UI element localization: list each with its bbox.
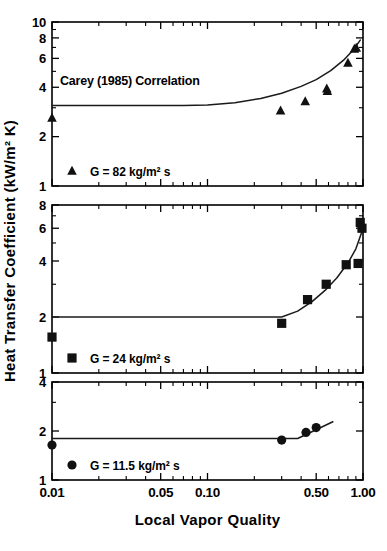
x-tick-label: 0.05	[148, 485, 174, 500]
data-point-triangle	[300, 96, 310, 105]
plot-frame-panel-middle	[52, 205, 363, 373]
y-tick-label: 8	[39, 31, 46, 46]
data-point-triangle	[276, 105, 286, 114]
plot-frame-panel-top	[52, 22, 363, 186]
data-point-circle	[312, 423, 321, 432]
x-tick-label: 0.50	[304, 485, 329, 500]
y-tick-label: 2	[39, 310, 46, 325]
data-point-square	[342, 260, 351, 269]
y-tick-label: 6	[39, 221, 46, 236]
x-axis-title: Local Vapor Quality	[135, 511, 281, 528]
correlation-curve	[52, 422, 333, 439]
y-tick-label: 4	[39, 80, 47, 95]
x-tick-label: 0.10	[195, 485, 220, 500]
y-tick-label: 4	[39, 254, 47, 269]
data-point-circle	[301, 428, 310, 437]
data-point-square	[67, 353, 76, 362]
legend-label: G = 24 kg/m² s	[90, 352, 171, 366]
panel-bottom: 421G = 11.5 kg/m² s	[39, 375, 363, 488]
data-point-circle	[277, 435, 286, 444]
correlation-curve	[52, 40, 360, 105]
panel-top: 1086421G = 82 kg/m² sCarey (1985) Correl…	[32, 15, 363, 194]
correlation-curve	[52, 232, 362, 317]
y-tick-label: 6	[39, 51, 46, 66]
y-tick-label: 10	[32, 15, 46, 30]
y-tick-label: 4	[39, 375, 47, 390]
correlation-annotation: Carey (1985) Correlation	[60, 74, 200, 88]
figure-container: 1086421G = 82 kg/m² sCarey (1985) Correl…	[0, 0, 387, 551]
y-axis-title: Heat Transfer Coefficient (kW/m² K)	[1, 120, 18, 382]
y-tick-label: 2	[39, 129, 46, 144]
data-point-square	[47, 332, 56, 341]
data-point-circle	[47, 440, 56, 449]
data-point-triangle	[67, 166, 77, 175]
legend-label: G = 82 kg/m² s	[90, 165, 171, 179]
data-point-square	[353, 259, 362, 268]
data-point-square	[357, 224, 366, 233]
y-tick-label: 1	[39, 179, 46, 194]
x-tick-label: 0.01	[39, 485, 65, 500]
data-point-circle	[67, 460, 76, 469]
data-point-square	[277, 319, 286, 328]
data-point-square	[303, 295, 312, 304]
x-tick-label: 1.00	[350, 485, 375, 500]
legend-label: G = 11.5 kg/m² s	[90, 459, 180, 473]
panel-middle: 86421G = 24 kg/m² s	[39, 198, 367, 381]
heat-transfer-coefficient-chart: 1086421G = 82 kg/m² sCarey (1985) Correl…	[0, 0, 387, 551]
data-point-square	[322, 280, 331, 289]
y-tick-label: 8	[39, 198, 46, 213]
y-tick-label: 2	[39, 424, 46, 439]
data-point-triangle	[47, 113, 57, 122]
